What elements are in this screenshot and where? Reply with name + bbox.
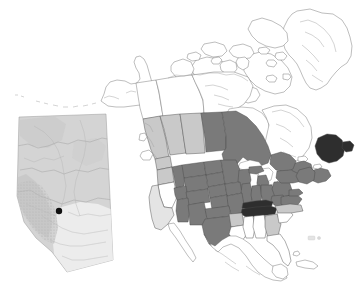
study-site-marker (56, 208, 62, 214)
arkansas (229, 213, 244, 227)
bermuda-islet-dot (317, 236, 320, 239)
caribbean-region (293, 251, 318, 269)
vancouver-island (140, 150, 153, 160)
florida (267, 234, 291, 266)
alberta-inset-panel (14, 112, 118, 275)
western-canada (139, 113, 205, 166)
small-arctic-isle-a (187, 52, 201, 61)
utah (174, 186, 188, 200)
alaska-region (15, 56, 154, 107)
arizona (176, 198, 190, 222)
aleutian-islands (15, 95, 96, 107)
small-arctic-isle-d (275, 52, 287, 60)
colorado (186, 189, 210, 205)
kentucky-tennessee-region (241, 200, 277, 217)
cuba (296, 260, 318, 269)
baja-california (168, 223, 196, 262)
haida-gwaii (139, 133, 147, 141)
us-pacific-northwest (155, 156, 174, 185)
alberta-inset-map (14, 112, 118, 275)
ellesmere-island (248, 18, 288, 48)
small-arctic-isle-c (258, 47, 270, 54)
devon-island (229, 44, 254, 59)
maryland-delaware (289, 189, 303, 196)
map-figure (0, 0, 364, 301)
greenland-region (282, 9, 352, 90)
greenland (282, 9, 352, 90)
bahamas (293, 251, 300, 256)
north-carolina (275, 204, 303, 213)
newfoundland (315, 134, 345, 163)
melville-island (201, 42, 227, 57)
manitoba (201, 112, 226, 152)
bermuda-islet-group (308, 236, 321, 240)
bermuda-islet (308, 236, 315, 240)
newfoundland-region (315, 134, 354, 163)
